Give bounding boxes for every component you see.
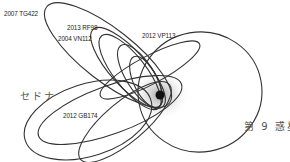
label-sedna: セドナ [20, 88, 56, 103]
sun [156, 91, 165, 100]
label-2013-rf98: 2013 RF98 [67, 24, 97, 31]
orbit-diagram [0, 0, 290, 162]
label-2004-vn112: 2004 VN112 [58, 35, 92, 42]
label-2012-gb174: 2012 GB174 [63, 112, 97, 119]
label-planet-nine: 第 9 惑星 [244, 118, 290, 133]
label-2012-vp113: 2012 VP113 [142, 32, 175, 39]
label-2007-tg422: 2007 TG422 [4, 10, 38, 17]
